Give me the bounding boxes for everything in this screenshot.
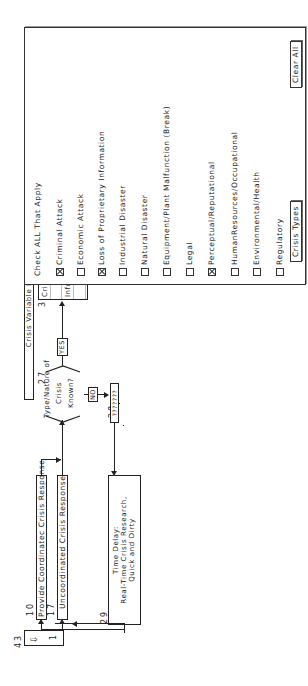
option-label: Environmental/Health [252,171,261,265]
option-perceptual-reputational[interactable]: Perceptual/Reputational [207,161,216,276]
connector-10-out [41,459,42,475]
node-29-time-delay-box[interactable]: Time Delay: Real-Time Crisis Research, Q… [108,475,141,625]
checkbox[interactable] [163,268,171,276]
diagram-canvas: Crisis Variable I: TYPES 30 Criminal Att… [0,0,308,686]
option-label: Industrial Disaster [118,185,127,265]
connector-28-29 [114,423,115,473]
node-29-line3: Quick and Dirty [128,476,136,624]
node-10-number: 10 [26,602,35,616]
arrow-head-icon [59,420,65,425]
checkbox[interactable] [141,268,149,276]
checkbox-checked[interactable] [56,268,64,276]
checkbox[interactable] [186,268,194,276]
option-human-resources-occupational[interactable]: HumanResources/Occupational [230,132,239,276]
arrow-head-icon [111,471,117,476]
arrow-head-icon [59,301,65,306]
node-17-label: Uncoordinated Crisis Response [58,476,67,619]
arrow-head-icon [104,392,109,398]
option-label: Economic Attack [76,193,85,265]
option-label: Equipment/Plant Malfunction (Break) [162,106,171,265]
option-label: Perceptual/Reputational [207,161,216,265]
option-environmental-health[interactable]: Environmental/Health [252,171,261,276]
node-17-number: 17 [47,602,56,616]
node-10-label: Provide Coordinatec Crisis Response [37,476,46,619]
option-industrial-disaster[interactable]: Industrial Disaster [118,185,127,276]
connector-yes [62,304,63,366]
checkbox[interactable] [276,268,284,276]
panel-heading: Check ALL That Apply [33,182,42,276]
stepper-control[interactable]: ⇩ 1 [24,630,64,646]
crisis-types-button[interactable]: Crisis Types [290,201,302,262]
checkbox[interactable] [231,268,239,276]
option-natural-disaster[interactable]: Natural Disaster [140,194,149,276]
node-29-line2: Real-Time Crisis Research, [120,476,128,624]
node-29-line1: Time Delay: [112,476,120,624]
option-label: Criminal Attack [55,198,64,265]
node-28-label: ??????? [111,384,118,422]
crisis-types-panel: Check ALL That Apply Criminal Attack Eco… [24,27,306,285]
option-label: Natural Disaster [140,194,149,265]
option-criminal-attack[interactable]: Criminal Attack [55,198,64,276]
option-label: Legal [185,242,194,265]
decision-label-line3: Known? [67,368,76,418]
connector-bus-vertical [55,623,125,624]
yes-label: YES [57,338,68,356]
no-text: NO [89,388,97,401]
arrow-head-icon [56,457,61,463]
option-label: HumanResources/Occupational [230,132,239,265]
connector-17-out [62,420,63,475]
decision-label-line2: Crisis [55,368,64,418]
node-28-box[interactable]: ??????? [110,383,119,423]
option-economic-attack[interactable]: Economic Attack [76,193,85,276]
yes-text: YES [58,339,67,355]
connector-28-to-29-h [123,425,124,426]
node-43-number: 43 [14,634,23,648]
checkbox[interactable] [119,268,127,276]
down-arrow-icon[interactable]: ⇩ [29,635,39,643]
checkbox[interactable] [253,268,261,276]
option-loss-proprietary-information[interactable]: Loss of Proprietary Information [97,131,106,276]
option-equipment-plant-malfunction[interactable]: Equipment/Plant Malfunction (Break) [162,106,171,276]
decision-label-line1: Type/Nature of [43,368,52,418]
arrow-head-icon [38,619,44,624]
node-17-box[interactable]: Uncoordinated Crisis Response [57,475,68,620]
checkbox-checked[interactable] [98,268,106,276]
no-label: NO [88,387,98,402]
clear-all-button[interactable]: Clear All [290,41,302,88]
arrow-head-icon [72,621,77,627]
option-label: Regulatory [275,218,284,265]
arrow-head-icon [59,619,65,624]
node-10-box[interactable]: Provide Coordinatec Crisis Response [36,475,47,620]
connector-28-to-29 [119,403,120,404]
checkbox-checked[interactable] [208,268,216,276]
option-legal[interactable]: Legal [185,242,194,276]
checkbox[interactable] [77,268,85,276]
option-label: Loss of Proprietary Information [97,131,106,265]
stepper-value: 1 [49,634,58,640]
option-regulatory[interactable]: Regulatory [275,218,284,276]
